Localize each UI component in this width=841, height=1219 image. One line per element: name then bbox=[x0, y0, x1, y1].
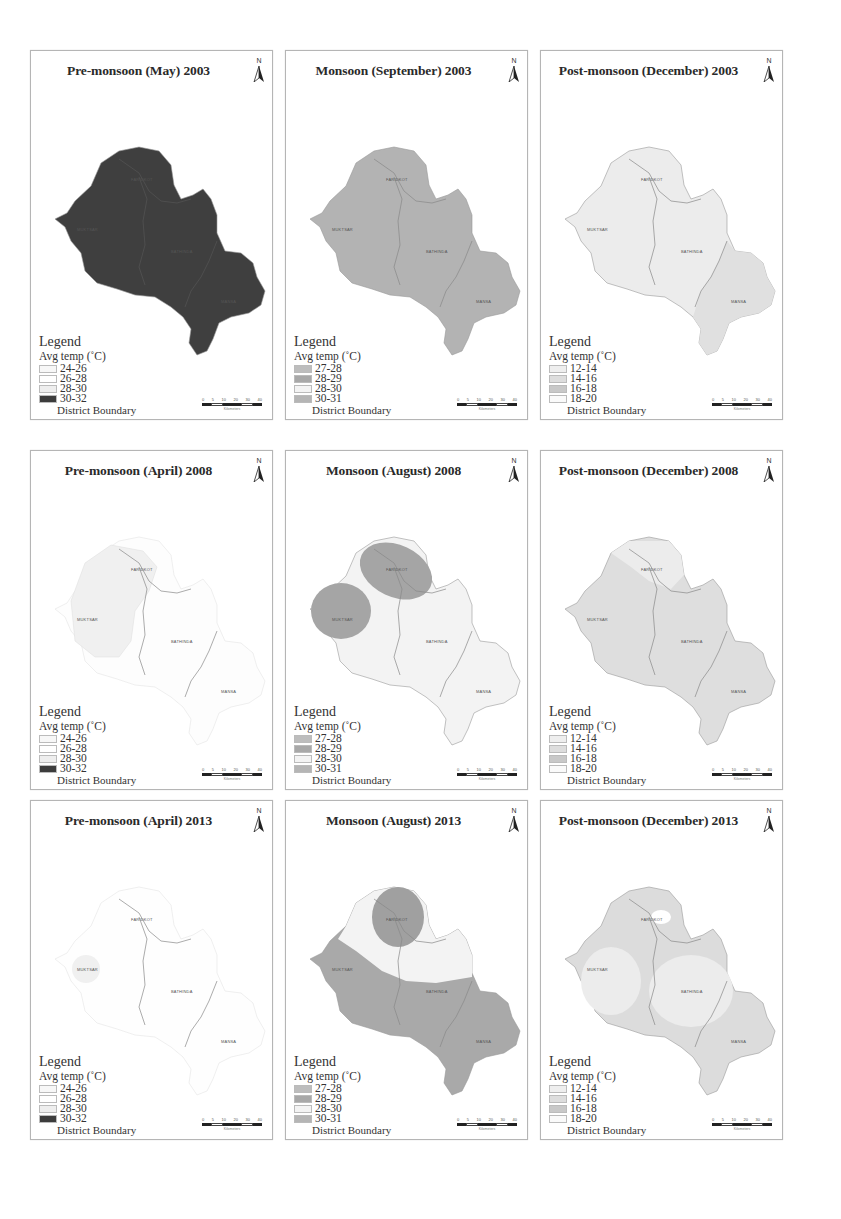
legend-item: 28-29 bbox=[294, 1094, 391, 1104]
scale-tick: 40 bbox=[257, 767, 261, 772]
legend-swatch bbox=[549, 395, 567, 403]
scale-ticks: 0510203040 bbox=[712, 1117, 772, 1122]
district-label-mansa: MANSA bbox=[476, 1039, 491, 1044]
district-label-bathinda: BATHINDA bbox=[171, 989, 193, 994]
scale-bar: 0510203040 Kilometers bbox=[712, 397, 772, 415]
scale-bar: 0510203040 Kilometers bbox=[202, 397, 262, 415]
legend-swatch bbox=[39, 1105, 57, 1113]
legend-label: 30-31 bbox=[315, 1113, 342, 1125]
district-label-bathinda: BATHINDA bbox=[426, 249, 448, 254]
legend-swatch bbox=[549, 1105, 567, 1113]
scale-tick: 0 bbox=[202, 767, 204, 772]
map-panel: Monsoon (August) 2013 N FARIDKOT MUKTSAR… bbox=[285, 800, 528, 1140]
legend-item: 30-31 bbox=[294, 1114, 391, 1124]
scale-tick: 5 bbox=[212, 767, 214, 772]
legend-swatch bbox=[39, 385, 57, 393]
legend-swatch bbox=[294, 395, 312, 403]
map-legend: Legend Avg temp (˚C) 24-26 26-28 28-30 bbox=[39, 1055, 136, 1136]
legend-item: 18-20 bbox=[549, 1114, 646, 1124]
legend-item: 14-16 bbox=[549, 1094, 646, 1104]
scale-tick: 30 bbox=[756, 397, 760, 402]
district-label-faridkot: FARIDKOT bbox=[641, 917, 663, 922]
scale-tick: 10 bbox=[222, 397, 226, 402]
scale-unit: Kilometers bbox=[202, 1127, 262, 1131]
district-label-mansa: MANSA bbox=[731, 299, 746, 304]
district-label-faridkot: FARIDKOT bbox=[131, 917, 153, 922]
legend-subtitle: Avg temp (˚C) bbox=[549, 351, 646, 363]
district-label-muktsar: MUKTSAR bbox=[332, 967, 353, 972]
legend-swatch bbox=[39, 395, 57, 403]
legend-subtitle: Avg temp (˚C) bbox=[294, 1071, 391, 1083]
scale-tick: 40 bbox=[767, 1117, 771, 1122]
legend-subtitle: Avg temp (˚C) bbox=[39, 1071, 136, 1083]
district-label-muktsar: MUKTSAR bbox=[332, 227, 353, 232]
scale-tick: 0 bbox=[457, 1117, 459, 1122]
legend-item: 28-30 bbox=[39, 754, 136, 764]
scale-bar: 0510203040 Kilometers bbox=[712, 1117, 772, 1135]
scale-tick: 40 bbox=[767, 397, 771, 402]
legend-item: 24-26 bbox=[39, 1084, 136, 1094]
legend-item: 18-20 bbox=[549, 764, 646, 774]
legend-swatch bbox=[294, 1085, 312, 1093]
scale-tick: 5 bbox=[212, 1117, 214, 1122]
legend-title: Legend bbox=[39, 1055, 136, 1069]
scale-tick: 40 bbox=[512, 767, 516, 772]
scale-tick: 5 bbox=[722, 397, 724, 402]
legend-swatch bbox=[39, 1085, 57, 1093]
scale-tick: 10 bbox=[732, 1117, 736, 1122]
district-label-muktsar: MUKTSAR bbox=[77, 227, 98, 232]
scale-unit: Kilometers bbox=[202, 777, 262, 781]
legend-swatch bbox=[549, 1115, 567, 1123]
legend-title: Legend bbox=[549, 705, 646, 719]
scale-tick: 20 bbox=[744, 1117, 748, 1122]
map-legend: Legend Avg temp (˚C) 12-14 14-16 16-18 bbox=[549, 705, 646, 786]
map-panel: Pre-monsoon (May) 2003 N FARIDKOT MUKTSA… bbox=[30, 50, 273, 420]
scale-tick: 10 bbox=[477, 1117, 481, 1122]
district-label-muktsar: MUKTSAR bbox=[587, 617, 608, 622]
scale-bar-graphic bbox=[712, 1123, 772, 1126]
cropped-header-text bbox=[260, 0, 560, 6]
legend-title: Legend bbox=[39, 335, 136, 349]
map-panel: Post-monsoon (December) 2008 N FARIDKOT … bbox=[540, 450, 783, 790]
scale-bar-graphic bbox=[457, 403, 517, 406]
scale-tick: 30 bbox=[756, 767, 760, 772]
legend-item: 12-14 bbox=[549, 1084, 646, 1094]
legend-swatch bbox=[549, 1095, 567, 1103]
legend-item: 28-30 bbox=[294, 754, 391, 764]
legend-item: 28-30 bbox=[294, 1104, 391, 1114]
legend-item: 16-18 bbox=[549, 754, 646, 764]
legend-swatch bbox=[549, 375, 567, 383]
legend-item: 24-26 bbox=[39, 734, 136, 744]
district-label-faridkot: FARIDKOT bbox=[131, 177, 153, 182]
district-label-muktsar: MUKTSAR bbox=[587, 227, 608, 232]
scale-tick: 10 bbox=[222, 767, 226, 772]
scale-tick: 5 bbox=[722, 767, 724, 772]
scale-tick: 10 bbox=[477, 767, 481, 772]
legend-swatch bbox=[39, 1095, 57, 1103]
scale-bar-graphic bbox=[457, 773, 517, 776]
legend-boundary-label: District Boundary bbox=[549, 1125, 646, 1136]
legend-swatch bbox=[294, 1095, 312, 1103]
legend-swatch bbox=[294, 765, 312, 773]
scale-bar: 0510203040 Kilometers bbox=[457, 767, 517, 785]
district-label-bathinda: BATHINDA bbox=[426, 639, 448, 644]
scale-bar: 0510203040 Kilometers bbox=[202, 767, 262, 785]
legend-subtitle: Avg temp (˚C) bbox=[39, 351, 136, 363]
legend-swatch bbox=[39, 375, 57, 383]
legend-item: 30-31 bbox=[294, 764, 391, 774]
legend-swatch bbox=[39, 735, 57, 743]
legend-swatch bbox=[294, 385, 312, 393]
district-label-muktsar: MUKTSAR bbox=[587, 967, 608, 972]
legend-item: 24-26 bbox=[39, 364, 136, 374]
map-legend: Legend Avg temp (˚C) 27-28 28-29 28-30 bbox=[294, 1055, 391, 1136]
legend-swatch bbox=[294, 735, 312, 743]
legend-swatch bbox=[294, 745, 312, 753]
legend-label: 30-32 bbox=[60, 1113, 87, 1125]
scale-bar-graphic bbox=[202, 403, 262, 406]
legend-item: 14-16 bbox=[549, 744, 646, 754]
scale-tick: 0 bbox=[457, 767, 459, 772]
map-panel: Pre-monsoon (April) 2008 N FARIDKOT MUKT… bbox=[30, 450, 273, 790]
legend-item: 28-29 bbox=[294, 744, 391, 754]
district-label-muktsar: MUKTSAR bbox=[77, 967, 98, 972]
legend-boundary-label: District Boundary bbox=[39, 775, 136, 786]
